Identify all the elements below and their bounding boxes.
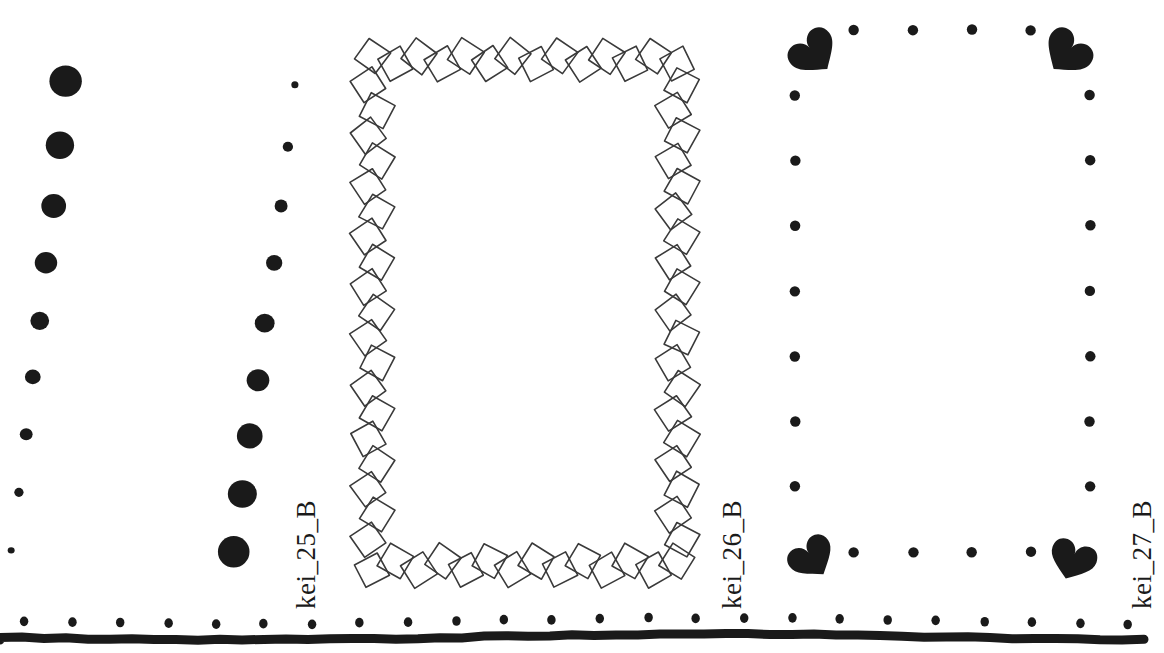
heart-ornament bbox=[1044, 535, 1101, 586]
bottom-rule bbox=[0, 613, 1144, 641]
rule-dot bbox=[116, 618, 124, 628]
caption-kei-27-b: kei_27_B bbox=[1127, 500, 1158, 609]
pattern-canvas bbox=[0, 0, 1164, 653]
rule-dot bbox=[500, 615, 508, 625]
graduated-dot bbox=[283, 142, 293, 152]
rule-dot bbox=[259, 619, 267, 629]
frame-dot bbox=[966, 547, 976, 557]
rule-dot bbox=[308, 619, 316, 629]
frame-dot bbox=[848, 25, 858, 35]
rule-dot bbox=[691, 614, 699, 624]
graduated-dot bbox=[25, 370, 41, 385]
graduated-dot bbox=[49, 65, 81, 96]
diamond-link bbox=[665, 523, 700, 557]
frame-dot bbox=[1085, 286, 1095, 296]
heart-ornament bbox=[783, 22, 847, 84]
frame-dot bbox=[790, 155, 800, 165]
rule-dot bbox=[452, 616, 460, 626]
pattern-sheet: kei_25_B kei_26_B kei_27_B bbox=[0, 0, 1164, 653]
frame-dot bbox=[790, 416, 800, 426]
graduated-dot bbox=[8, 547, 15, 553]
rule-dot bbox=[835, 614, 843, 624]
rule-dot bbox=[981, 617, 989, 627]
frame-dot bbox=[790, 221, 800, 231]
rule-dot bbox=[20, 617, 28, 627]
diamond-link bbox=[359, 93, 395, 129]
frame-dot bbox=[1085, 155, 1095, 165]
column-left-descending bbox=[8, 65, 82, 553]
frame-dot bbox=[790, 90, 800, 100]
frame-dot bbox=[908, 547, 918, 557]
frame-dot bbox=[790, 351, 800, 361]
frame-dot bbox=[790, 286, 800, 296]
rule-dot bbox=[740, 613, 748, 623]
rule-dot bbox=[644, 613, 652, 623]
graduated-dot bbox=[228, 480, 257, 507]
rule-dot bbox=[164, 618, 172, 628]
graduated-dot bbox=[218, 536, 250, 567]
frame-dot bbox=[908, 25, 918, 35]
diamond-link bbox=[350, 522, 386, 557]
graduated-dot bbox=[35, 252, 57, 273]
rule-dot bbox=[596, 614, 604, 624]
rule-dot bbox=[68, 617, 76, 627]
frame-dot bbox=[1084, 416, 1094, 426]
graduated-dot bbox=[41, 194, 66, 218]
rule-dot bbox=[355, 618, 363, 628]
baseline-stroke bbox=[0, 633, 1144, 640]
graduated-dot bbox=[247, 369, 270, 391]
graduated-dot bbox=[255, 314, 275, 333]
frame-dot bbox=[1084, 90, 1094, 100]
graduated-dot bbox=[237, 423, 263, 448]
frame-dot bbox=[1085, 220, 1095, 230]
caption-kei-25-b: kei_25_B bbox=[291, 500, 322, 609]
heart-ornament bbox=[1035, 22, 1099, 84]
rule-dot bbox=[1028, 617, 1036, 627]
rule-dot bbox=[788, 613, 796, 623]
frame-dot bbox=[848, 547, 858, 557]
caption-kei-26-b: kei_26_B bbox=[717, 500, 748, 609]
rule-dot bbox=[1123, 620, 1131, 630]
graduated-dot bbox=[275, 199, 288, 212]
frame-dot bbox=[1026, 546, 1036, 556]
rule-dot bbox=[883, 615, 891, 625]
diamond-link bbox=[664, 371, 700, 407]
rule-dot bbox=[404, 617, 412, 627]
rule-dot bbox=[931, 616, 939, 626]
pattern-kei-25-b bbox=[8, 65, 299, 567]
column-right-ascending bbox=[218, 81, 299, 567]
rule-dot bbox=[212, 619, 220, 629]
frame-dot bbox=[790, 481, 800, 491]
pattern-kei-27-b bbox=[783, 22, 1101, 587]
graduated-dot bbox=[20, 428, 33, 440]
rule-dot bbox=[547, 615, 555, 625]
frame-dot bbox=[967, 24, 977, 34]
heart-ornament bbox=[783, 530, 843, 588]
frame-dot bbox=[1085, 351, 1095, 361]
graduated-dot bbox=[291, 81, 298, 88]
graduated-dot bbox=[266, 255, 282, 271]
graduated-dot bbox=[30, 312, 49, 330]
graduated-dot bbox=[14, 488, 23, 497]
frame-dot bbox=[1025, 25, 1035, 35]
graduated-dot bbox=[46, 132, 74, 159]
frame-dot bbox=[1085, 481, 1095, 491]
rule-dot bbox=[1076, 618, 1084, 628]
pattern-kei-26-b bbox=[350, 37, 701, 588]
